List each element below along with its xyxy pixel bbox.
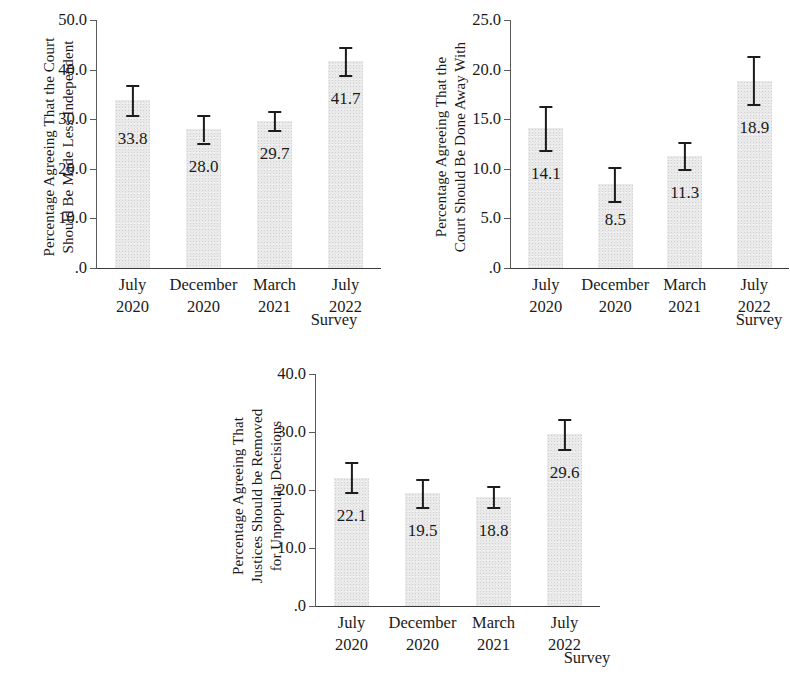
error-bar-line [421,479,423,507]
error-bar-line [545,106,547,150]
bar [476,497,512,606]
bar-value-label: 29.7 [260,144,290,164]
y-axis-title-line: Percentage Agreeing That the Court [40,22,59,272]
y-axis-tick [504,268,511,269]
bar [667,156,702,268]
y-axis-tick-label: 10.0 [277,538,306,558]
error-bar-cap-lower [609,201,622,203]
x-axis-tick-label-line: 2021 [472,634,515,656]
bar-value-label: 14.1 [531,164,561,184]
error-bar-cap-upper [197,115,210,117]
error-bar-cap-lower [126,115,139,117]
error-bar-cap-upper [345,462,358,464]
x-axis-tick-label-line: 2021 [253,296,296,318]
x-axis-tick-label: March2021 [472,612,515,656]
x-axis-tick-label-line: 2020 [335,634,368,656]
error-bar-cap-upper [126,85,139,87]
bar-value-label: 41.7 [331,89,361,109]
y-axis-title-line: Percentage Agreeing That [229,378,248,614]
y-axis-tick-label: 20.0 [472,60,501,80]
error-bar-cap-lower [345,492,358,494]
x-axis-tick-label-line: December [581,274,649,296]
bar-value-label: 18.9 [739,118,769,138]
error-bar-cap-lower [339,75,352,77]
error-bar-cap-upper [339,47,352,49]
error-bar-cap-upper [487,486,500,488]
y-axis-tick-label: 40.0 [277,364,306,384]
x-axis-tick-label-line: July [329,274,362,296]
bar-value-label: 19.5 [408,521,438,541]
y-axis-tick [90,169,97,170]
x-axis-tick-label: December2020 [389,612,457,656]
y-axis-tick [90,218,97,219]
error-bar-line [753,56,755,105]
y-axis-tick [504,119,511,120]
bar [405,493,441,606]
error-bar-cap-lower [416,507,429,509]
y-axis-tick [309,432,316,433]
error-bar-cap-lower [197,143,210,145]
x-axis-tick-label-line: 2020 [116,296,149,318]
y-axis-tick-label: 5.0 [480,208,501,228]
y-axis-tick-label: 20.0 [277,480,306,500]
y-axis-tick-label: 40.0 [58,60,87,80]
x-axis-tick-label-line: 2020 [389,634,457,656]
x-axis-tick-label: March2021 [253,274,296,318]
x-axis-tick-label-line: March [663,274,706,296]
error-bar-cap-lower [748,104,761,106]
bar [115,100,151,268]
y-axis-tick-label: .0 [489,258,501,278]
bar-value-label: 28.0 [189,157,219,177]
bar-value-label: 8.5 [605,210,626,230]
chart-panel-court-less-independent: Percentage Agreeing That the CourtShould… [0,0,400,345]
y-axis-tick [504,169,511,170]
error-bar-cap-upper [609,167,622,169]
plot-area-panel-2: .05.010.015.020.025.014.1July20208.5Dece… [510,20,789,269]
error-bar-cap-lower [539,150,552,152]
y-axis-tick [90,70,97,71]
error-bar-cap-upper [416,479,429,481]
x-axis-tick-label-line: July [335,612,368,634]
x-axis-title-panel-1: Survey [311,310,358,330]
y-axis-tick [309,490,316,491]
error-bar-cap-upper [748,56,761,58]
error-bar-line [131,85,133,115]
error-bar-line [614,167,616,201]
x-axis-tick-label-line: March [253,274,296,296]
y-axis-tick-label: 10.0 [58,208,87,228]
bar-value-label: 33.8 [118,129,148,149]
bar [186,129,222,268]
bar [547,434,583,606]
x-axis-title-panel-2: Survey [736,310,783,330]
chart-panel-justices-removed: Percentage Agreeing ThatJustices Should … [185,360,605,682]
error-bar-line [350,462,352,492]
bar-value-label: 22.1 [337,506,367,526]
error-bar-cap-lower [558,449,571,451]
chart-panel-court-done-away-with: Percentage Agreeing That theCourt Should… [400,0,790,345]
x-axis-tick-label-line: 2020 [581,296,649,318]
y-axis-tick-label: .0 [294,596,306,616]
x-axis-tick-label: July2020 [335,612,368,656]
y-axis-tick-label: 30.0 [58,109,87,129]
y-axis-tick [309,374,316,375]
bar-value-label: 11.3 [670,183,699,203]
error-bar-cap-lower [268,130,281,132]
bar [334,478,370,606]
error-bar-line [273,111,275,130]
plot-area-panel-1: .010.020.030.040.050.033.8July202028.0De… [96,20,381,269]
x-axis-tick-label-line: 2020 [170,296,238,318]
plot-area-panel-3: .010.020.030.040.022.1July202019.5Decemb… [315,374,600,607]
y-axis-tick [90,20,97,21]
error-bar-cap-upper [558,419,571,421]
error-bar-cap-upper [539,106,552,108]
bar [737,81,772,268]
y-axis-tick [90,268,97,269]
y-axis-tick [309,548,316,549]
bar-value-label: 29.6 [550,463,580,483]
y-axis-tick-label: 25.0 [472,10,501,30]
error-bar-cap-upper [268,111,281,113]
bar-value-label: 18.8 [479,521,509,541]
y-axis-title-line: Percentage Agreeing That the [432,22,451,272]
y-axis-tick-label: .0 [75,258,87,278]
x-axis-tick-label-line: 2020 [529,296,562,318]
